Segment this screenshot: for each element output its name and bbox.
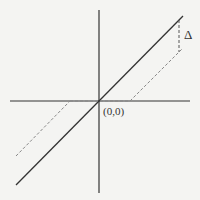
origin-label: (0,0) [103, 106, 124, 117]
diagram-svg [0, 0, 200, 200]
shift-diagram: (0,0) Δ [0, 0, 200, 200]
shifted-line-lower [16, 101, 70, 156]
shifted-line-upper [130, 48, 183, 101]
delta-label: Δ [184, 28, 192, 41]
